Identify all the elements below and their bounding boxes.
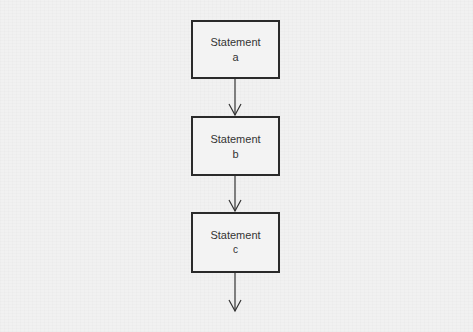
statement-c-id: c	[233, 243, 238, 257]
arrow-c-continuation	[229, 273, 241, 311]
statement-c-label: Statement	[210, 228, 260, 242]
statement-a-box: Statement a	[191, 20, 280, 79]
statement-b-id: b	[232, 147, 238, 161]
statement-c-box: Statement c	[191, 212, 280, 273]
diagram-canvas: Statement a Statement b Statement c	[0, 0, 473, 332]
statement-b-label: Statement	[210, 132, 260, 146]
arrow-a-to-b	[229, 79, 241, 115]
statement-a-label: Statement	[210, 35, 260, 49]
statement-a-id: a	[232, 50, 238, 64]
statement-b-box: Statement b	[191, 116, 280, 176]
arrow-b-to-c	[229, 176, 241, 211]
